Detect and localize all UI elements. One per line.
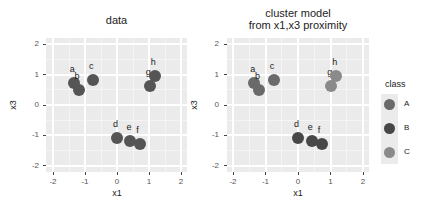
data-point [292, 132, 304, 144]
x-tick-label: 2 [355, 177, 371, 186]
legend-key [384, 123, 395, 134]
y-tick-label: 1 [209, 70, 219, 79]
chart-title: data [46, 14, 187, 26]
chart-title: from x1,x3 proximity [227, 19, 369, 31]
y-tick [224, 74, 227, 75]
point-label: d [294, 119, 299, 129]
y-tick [43, 135, 46, 136]
data-point [144, 80, 156, 92]
y-tick [224, 105, 227, 106]
x-tick [233, 172, 234, 175]
y-tick-label: 2 [209, 39, 219, 48]
y-tick-label: 0 [29, 100, 39, 109]
major-gridline [46, 74, 187, 76]
point-label: f [136, 125, 139, 135]
chart-title: cluster model [227, 7, 369, 19]
major-gridline [46, 43, 187, 45]
x-tick-label: -2 [45, 177, 61, 186]
x-tick [181, 172, 182, 175]
major-gridline [227, 43, 369, 45]
legend-label: B [404, 123, 409, 132]
y-tick-label: 1 [29, 70, 39, 79]
y-tick-label: 0 [209, 100, 219, 109]
data-point [268, 74, 280, 86]
y-tick [224, 165, 227, 166]
x-tick-label: -1 [77, 177, 93, 186]
x-tick [117, 172, 118, 175]
point-label: d [113, 119, 118, 129]
major-gridline [227, 104, 369, 106]
y-tick [43, 105, 46, 106]
x-tick-label: -1 [258, 177, 274, 186]
legend-title: class [385, 79, 406, 89]
x-tick-label: 0 [290, 177, 306, 186]
x-tick [53, 172, 54, 175]
y-tick-label: -1 [29, 130, 39, 139]
x-tick [149, 172, 150, 175]
data-point [253, 84, 265, 96]
x-tick [265, 172, 266, 175]
point-label: h [332, 57, 337, 67]
point-label: b [255, 71, 260, 81]
point-label: e [126, 122, 131, 132]
point-label: h [151, 57, 156, 67]
point-label: b [75, 71, 80, 81]
y-tick-label: -2 [209, 161, 219, 170]
y-axis-label: x3 [189, 100, 199, 110]
x-tick-label: 1 [323, 177, 339, 186]
y-axis-label: x3 [8, 100, 18, 110]
major-gridline [227, 165, 369, 167]
data-point [73, 84, 85, 96]
data-point [111, 132, 123, 144]
point-label: f [318, 125, 321, 135]
x-axis-label: x1 [290, 188, 306, 198]
point-label: c [270, 61, 275, 71]
x-tick [330, 172, 331, 175]
major-gridline [46, 165, 187, 167]
y-tick [224, 135, 227, 136]
legend-key [384, 99, 395, 110]
y-tick-label: -2 [29, 161, 39, 170]
legend-key [384, 147, 395, 158]
y-tick-label: -1 [209, 130, 219, 139]
y-tick-label: 2 [29, 39, 39, 48]
point-label: e [308, 122, 313, 132]
x-axis-label: x1 [109, 188, 125, 198]
x-tick-label: 2 [173, 177, 189, 186]
x-tick [85, 172, 86, 175]
major-gridline [227, 74, 369, 76]
y-tick [43, 44, 46, 45]
x-tick [363, 172, 364, 175]
x-tick-label: -2 [225, 177, 241, 186]
x-tick-label: 1 [141, 177, 157, 186]
point-label: c [89, 61, 94, 71]
y-tick [224, 44, 227, 45]
y-tick [43, 74, 46, 75]
y-tick [43, 165, 46, 166]
major-gridline [46, 104, 187, 106]
x-tick-label: 0 [109, 177, 125, 186]
legend-label: C [404, 147, 410, 156]
x-tick [298, 172, 299, 175]
data-point [149, 70, 161, 82]
legend-label: A [404, 99, 409, 108]
